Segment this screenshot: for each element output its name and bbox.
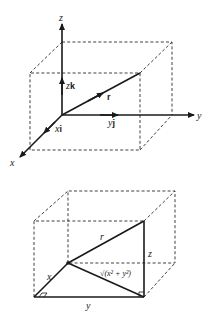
- xi-label: xi: [54, 123, 62, 134]
- origin-point: [66, 261, 70, 265]
- r-arrow: [88, 93, 103, 101]
- r-label-bottom: r: [100, 231, 104, 242]
- y-axis-label: y: [196, 110, 202, 121]
- top-box-edges: [30, 42, 172, 150]
- r-label: r: [107, 92, 111, 102]
- x-label-bottom: x: [46, 271, 52, 282]
- bottom-box-edges: [34, 191, 175, 297]
- top-diagram: z y x zk yj xi r: [9, 12, 202, 168]
- yj-label: yj: [107, 117, 115, 128]
- z-axis-label: z: [58, 12, 63, 23]
- vector-diagrams: z y x zk yj xi r: [0, 0, 214, 319]
- xi-arrow: [44, 122, 55, 133]
- diagonal-label: √(x² + y²): [100, 269, 131, 278]
- y-label-bottom: y: [85, 300, 91, 311]
- x-axis: [20, 115, 62, 157]
- x-axis-label: x: [9, 157, 15, 168]
- z-label-bottom: z: [147, 248, 152, 259]
- bottom-diagram: r z x y √(x² + y²): [34, 191, 175, 311]
- zk-label: zk: [65, 80, 76, 91]
- r-edge: [68, 221, 144, 263]
